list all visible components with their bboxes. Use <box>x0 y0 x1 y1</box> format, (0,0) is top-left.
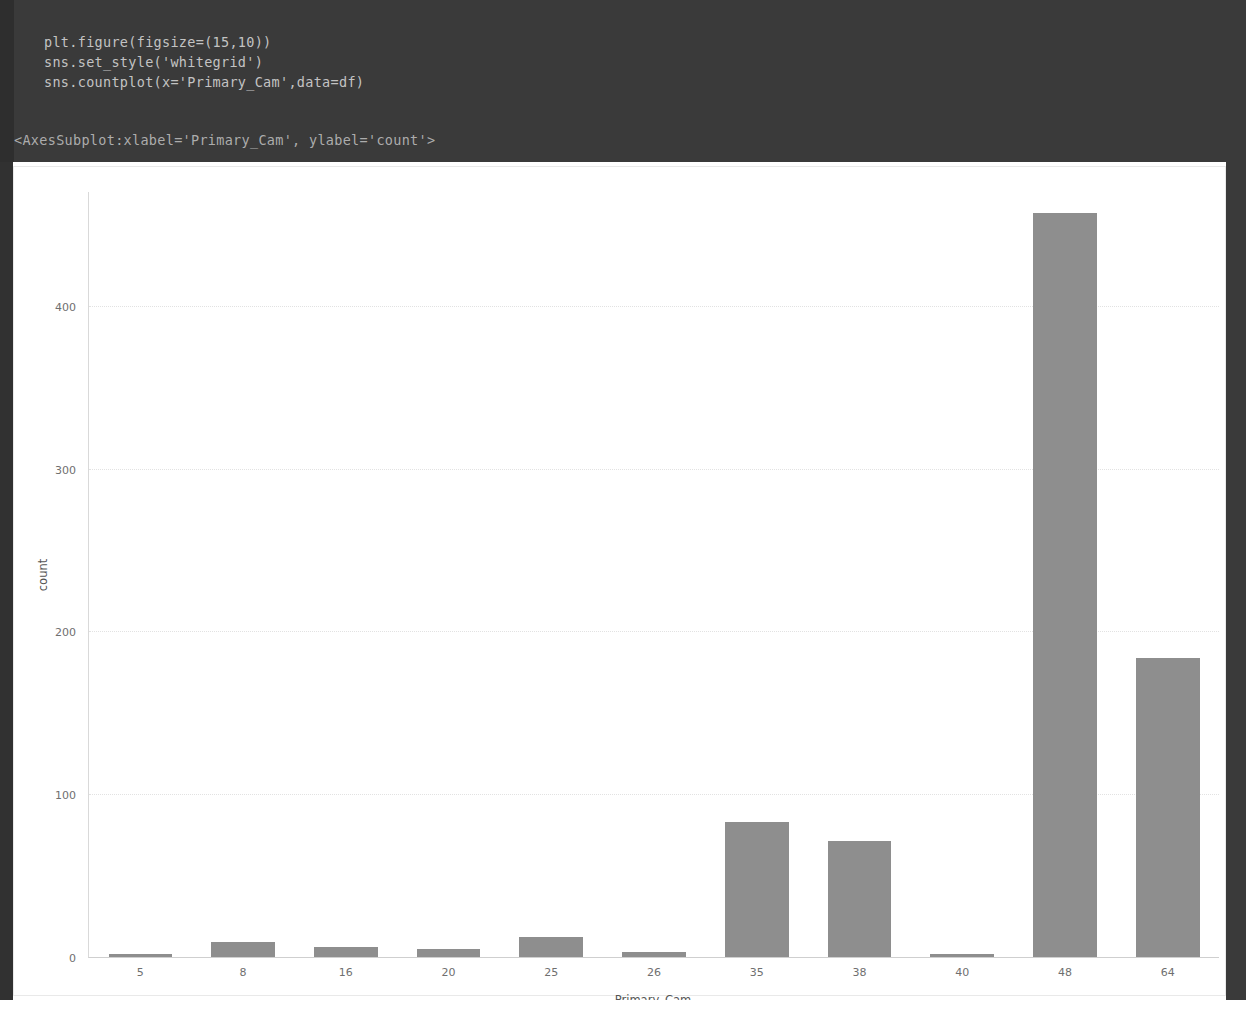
x-tick-label: 5 <box>89 966 192 979</box>
y-tick-label: 300 <box>55 463 76 476</box>
x-tick-label: 20 <box>397 966 500 979</box>
bar-slot: 5 <box>89 192 192 957</box>
bar <box>725 822 789 957</box>
code-cell[interactable]: plt.figure(figsize=(15,10)) sns.set_styl… <box>0 0 1246 162</box>
code-line-1: plt.figure(figsize=(15,10)) <box>44 32 1144 52</box>
x-tick-label: 38 <box>808 966 911 979</box>
x-tick-label: 64 <box>1116 966 1219 979</box>
figure-bottom-border <box>0 1000 1246 1012</box>
bar <box>109 954 173 957</box>
code-lines[interactable]: plt.figure(figsize=(15,10)) sns.set_styl… <box>44 32 1144 92</box>
y-tick-label: 200 <box>55 626 76 639</box>
x-tick-label: 26 <box>603 966 706 979</box>
bar <box>828 841 892 957</box>
figure-right-border <box>1226 162 1246 1000</box>
bar-slot: 16 <box>294 192 397 957</box>
plot-area: 0100200300400 count 58162025263538404864… <box>88 192 1218 957</box>
bar-slot: 20 <box>397 192 500 957</box>
figure-output: 0100200300400 count 58162025263538404864… <box>0 162 1246 1012</box>
bar <box>1136 658 1200 957</box>
y-tick-label: 0 <box>69 952 76 965</box>
bar-slot: 64 <box>1116 192 1219 957</box>
bar-series: 58162025263538404864 <box>89 192 1219 957</box>
axes: 0100200300400 count 58162025263538404864 <box>88 192 1219 958</box>
code-line-3: sns.countplot(x='Primary_Cam',data=df) <box>44 72 1144 92</box>
bar <box>622 952 686 957</box>
y-tick-label: 400 <box>55 300 76 313</box>
y-tick-label: 100 <box>55 789 76 802</box>
bar-slot: 8 <box>192 192 295 957</box>
x-tick-label: 8 <box>192 966 295 979</box>
gridline-0: 0 <box>89 957 1219 958</box>
bar-slot: 48 <box>1014 192 1117 957</box>
x-tick-label: 25 <box>500 966 603 979</box>
bar-slot: 25 <box>500 192 603 957</box>
bar <box>930 954 994 957</box>
bar <box>519 937 583 957</box>
bar-slot: 40 <box>911 192 1014 957</box>
x-tick-label: 16 <box>294 966 397 979</box>
cell-output-text: <AxesSubplot:xlabel='Primary_Cam', ylabe… <box>14 131 435 149</box>
bar <box>1033 213 1097 957</box>
bar <box>211 942 275 957</box>
code-line-2: sns.set_style('whitegrid') <box>44 52 1144 72</box>
x-tick-label: 48 <box>1014 966 1117 979</box>
figure-canvas: 0100200300400 count 58162025263538404864… <box>13 166 1226 996</box>
x-tick-label: 40 <box>911 966 1014 979</box>
figure-left-border <box>0 162 13 1000</box>
bar <box>417 949 481 957</box>
notebook-screenshot: plt.figure(figsize=(15,10)) sns.set_styl… <box>0 0 1246 1012</box>
bar-slot: 38 <box>808 192 911 957</box>
bar-slot: 35 <box>705 192 808 957</box>
bar-slot: 26 <box>603 192 706 957</box>
y-axis-label: count <box>36 558 50 590</box>
bar <box>314 947 378 957</box>
x-tick-label: 35 <box>705 966 808 979</box>
